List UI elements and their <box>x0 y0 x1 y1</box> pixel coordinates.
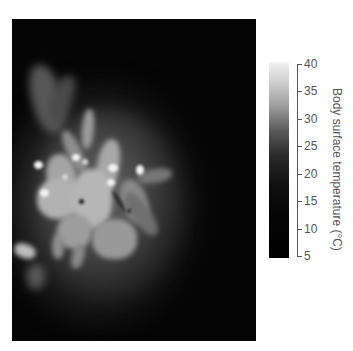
hot-spot <box>82 159 88 165</box>
tick-mark <box>297 91 302 92</box>
tick-label: 15 <box>304 195 317 207</box>
tick-label: 40 <box>304 58 317 70</box>
tick-mark <box>297 146 302 147</box>
hot-spot <box>136 165 144 175</box>
tick-label: 10 <box>304 223 317 235</box>
tick-label: 35 <box>304 85 317 97</box>
tick-label: 30 <box>304 113 317 125</box>
tick-label: 20 <box>304 168 317 180</box>
cold-spot <box>79 199 84 204</box>
hot-spot <box>34 161 43 169</box>
tick-label: 25 <box>304 140 317 152</box>
animal-body <box>52 234 64 259</box>
hot-spot <box>108 164 118 172</box>
colorbar-title-container: Body surface temperature (°C) <box>330 88 344 238</box>
thermal-image <box>12 19 256 341</box>
hot-spot <box>72 154 80 161</box>
tick-mark <box>297 174 302 175</box>
tick-mark <box>297 229 302 230</box>
tick-mark <box>297 64 302 65</box>
hot-spot <box>62 174 68 180</box>
hot-spot <box>107 179 115 186</box>
tick-label: 5 <box>304 250 311 262</box>
cold-spot <box>127 209 131 213</box>
tick-mark <box>297 201 302 202</box>
colorbar <box>269 62 289 258</box>
colorbar-title: Body surface temperature (°C) <box>330 88 344 251</box>
hot-spot <box>40 189 49 197</box>
tick-mark <box>297 256 302 257</box>
animal-body <box>92 219 137 259</box>
tick-mark <box>297 119 302 120</box>
animal-body <box>27 264 45 289</box>
